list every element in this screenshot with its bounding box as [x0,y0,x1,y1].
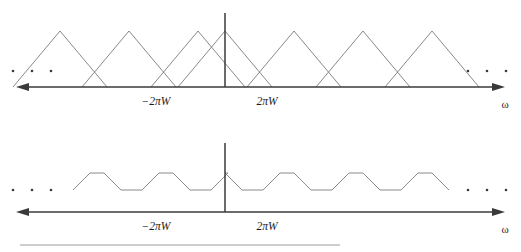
triangle-spectra-group [13,31,479,87]
tick-label-positive-2piW: 2πW [256,95,279,107]
ellipsis-dot [12,70,15,73]
replica-triangle [151,31,245,87]
ellipsis-left-bottom [12,189,53,192]
figure-root: −2πW 2πW ω [0,0,521,252]
ellipsis-dot [31,189,34,192]
ellipsis-dot [467,70,470,73]
x-axis-arrow-left [16,208,29,216]
ellipsis-right-bottom [467,189,508,192]
tick-label-positive-2piW: 2πW [256,220,279,232]
x-axis-arrow-left [16,83,29,91]
ellipsis-right-top [467,70,508,73]
ellipsis-dot [50,70,53,73]
x-axis-label-omega: ω [501,223,508,235]
ellipsis-dot [31,70,34,73]
ellipsis-dot [467,189,470,192]
replica-triangle [13,31,107,87]
tick-label-negative-2piW: −2πW [142,220,172,232]
x-axis-arrow-right [492,208,505,216]
ellipsis-dot [12,189,15,192]
replica-triangle [247,31,341,87]
x-axis-bottom [16,208,505,216]
ellipsis-dot [505,189,508,192]
spectrum-figure: −2πW 2πW ω [0,0,521,252]
replica-triangle [82,31,176,87]
ellipsis-dot [50,189,53,192]
ellipsis-dot [486,189,489,192]
x-axis-label-omega: ω [501,98,508,110]
x-axis-arrow-right [492,83,505,91]
ellipsis-dot [505,70,508,73]
replica-triangle [316,31,410,87]
summed-ripple-curve [73,173,449,190]
replica-triangle [385,31,479,87]
ellipsis-dot [486,70,489,73]
x-axis-top [16,83,505,91]
ellipsis-left-top [12,70,53,73]
tick-label-negative-2piW: −2πW [142,95,172,107]
plot-bottom: −2πW 2πW ω [12,143,509,235]
plot-top: −2πW 2πW ω [12,13,509,110]
